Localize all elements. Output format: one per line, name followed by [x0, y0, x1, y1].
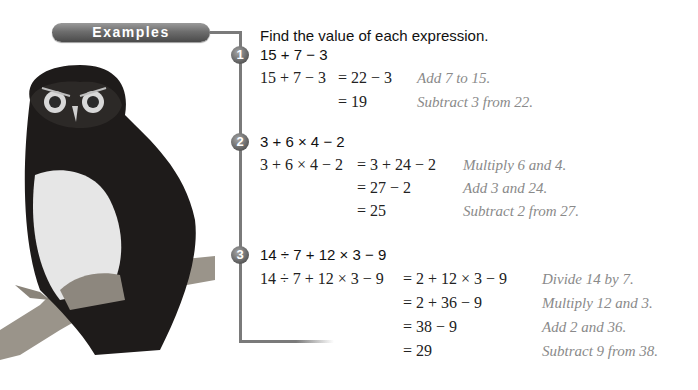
step-right-2-2: = 27 − 2 [357, 179, 411, 197]
step-note-2-3: Subtract 2 from 27. [463, 203, 579, 220]
example-problem-2: 3 + 6 × 4 − 2 [260, 133, 345, 150]
example-number-badge-3: 3 [231, 246, 249, 264]
step-right-1-2: = 19 [338, 93, 367, 111]
example-problem-1: 15 + 7 − 3 [260, 46, 328, 63]
step-left-3-1: 14 ÷ 7 + 12 × 3 − 9 [260, 270, 384, 288]
example-problem-3: 14 ÷ 7 + 12 × 3 − 9 [260, 246, 386, 263]
step-right-3-4: = 29 [403, 342, 432, 360]
step-note-3-1: Divide 14 by 7. [542, 271, 634, 288]
example-number-badge-1: 1 [231, 46, 249, 64]
step-note-1-1: Add 7 to 15. [417, 70, 490, 87]
owl-photo [0, 60, 230, 370]
step-note-1-2: Subtract 3 from 22. [417, 94, 533, 111]
step-right-1-1: = 22 − 3 [338, 69, 392, 87]
step-note-3-4: Subtract 9 from 38. [542, 343, 658, 360]
step-note-3-2: Multiply 12 and 3. [542, 295, 653, 312]
step-right-3-2: = 2 + 36 − 9 [403, 294, 482, 312]
instructions-heading: Find the value of each expression. [260, 27, 488, 44]
bracket-line-vertical [239, 31, 242, 343]
step-right-3-1: = 2 + 12 × 3 − 9 [403, 270, 507, 288]
step-note-3-3: Add 2 and 36. [542, 319, 626, 336]
step-left-1-1: 15 + 7 − 3 [260, 69, 326, 87]
bracket-line-bottom [239, 340, 334, 343]
step-right-2-3: = 25 [357, 202, 386, 220]
step-right-2-1: = 3 + 24 − 2 [357, 156, 436, 174]
step-right-3-3: = 38 − 9 [403, 318, 457, 336]
bracket-line-top [210, 31, 242, 34]
examples-banner: Examples [52, 23, 210, 42]
step-note-2-2: Add 3 and 24. [463, 180, 547, 197]
example-number-badge-2: 2 [231, 133, 249, 151]
step-left-2-1: 3 + 6 × 4 − 2 [260, 156, 343, 174]
step-note-2-1: Multiply 6 and 4. [463, 157, 566, 174]
